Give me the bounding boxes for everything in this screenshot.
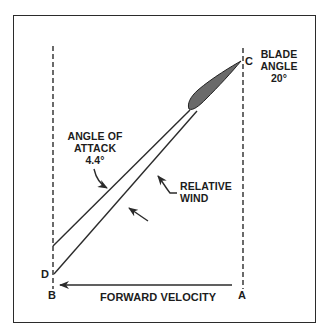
blade-angle-label: BLADE ANGLE 20° (253, 48, 305, 84)
relative-wind-arrow (129, 208, 148, 221)
forward-velocity-label: FORWARD VELOCITY (100, 291, 216, 303)
relative-wind-pointer (158, 176, 177, 193)
point-b-label: B (48, 289, 56, 301)
relative-wind-label: RELATIVE WIND (180, 180, 232, 204)
angle-of-attack-pointer (94, 169, 107, 188)
angle-of-attack-line2: ATTACK (60, 142, 130, 154)
relative-wind-line1: RELATIVE (180, 180, 232, 192)
point-c-label: C (245, 55, 253, 67)
blade-angle-line2: ANGLE (253, 60, 305, 72)
angle-of-attack-value: 4.4° (60, 154, 130, 166)
point-d-label: D (41, 268, 49, 280)
blade-angle-value: 20° (253, 72, 305, 84)
angle-of-attack-label: ANGLE OF ATTACK 4.4° (60, 130, 130, 166)
point-a-label: A (238, 289, 246, 301)
angle-of-attack-line1: ANGLE OF (60, 130, 130, 142)
blade-angle-line1: BLADE (253, 48, 305, 60)
blade-airfoil (188, 61, 241, 109)
relative-wind-line2: WIND (180, 192, 232, 204)
